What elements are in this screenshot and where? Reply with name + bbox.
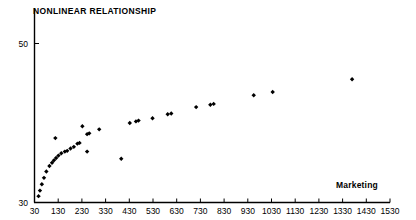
data-point (211, 102, 215, 106)
data-point-group (36, 77, 354, 198)
scatter-chart: NONLINEAR RELATIONSHIP Marketing 3013023… (0, 0, 416, 220)
data-point (252, 93, 256, 97)
y-axis-tick-label: 30 (6, 198, 28, 208)
data-point (169, 111, 173, 115)
data-point (350, 77, 354, 81)
data-point (119, 157, 123, 161)
data-point (208, 103, 212, 107)
data-point (165, 112, 169, 116)
data-point (85, 149, 89, 153)
data-point (53, 136, 57, 140)
data-point (194, 105, 198, 109)
y-axis-tick-label: 50 (6, 39, 28, 49)
data-point (44, 169, 48, 173)
data-point (42, 176, 46, 180)
data-point (80, 124, 84, 128)
data-point (40, 182, 44, 186)
data-point (128, 121, 132, 125)
data-point (270, 90, 274, 94)
data-point (47, 164, 51, 168)
data-point (150, 116, 154, 120)
data-point (38, 188, 42, 192)
plot-canvas (0, 0, 416, 220)
data-point (97, 127, 101, 131)
data-point (36, 194, 40, 198)
x-axis-tick-label: 1530 (375, 206, 405, 216)
